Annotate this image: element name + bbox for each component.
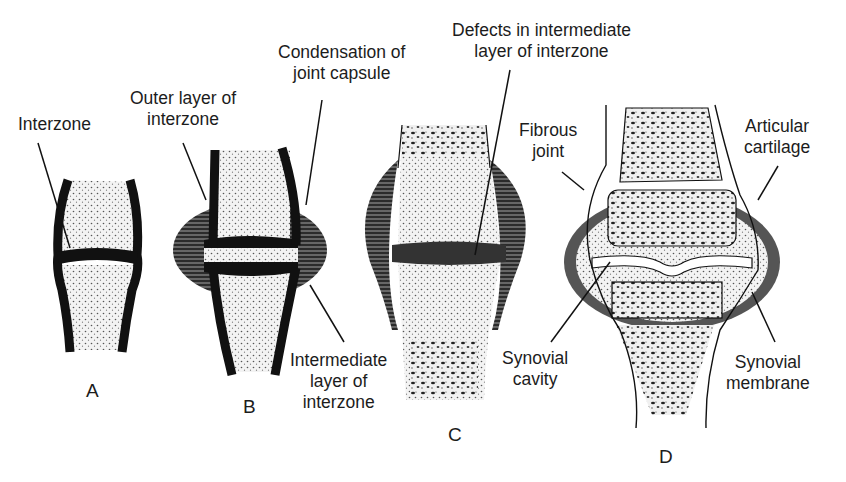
panel-label-a: A	[86, 380, 99, 402]
label-intermediate-layer: Intermediate layer of interzone	[290, 350, 387, 413]
panel-label-b: B	[243, 396, 256, 418]
label-outer-layer: Outer layer of interzone	[130, 88, 236, 130]
panel-label-d: D	[659, 446, 673, 468]
panel-label-c: C	[448, 424, 462, 446]
label-defects-intermediate-layer: Defects in intermediate layer of interzo…	[452, 20, 631, 62]
label-synovial-membrane: Synovial membrane	[726, 352, 810, 394]
panel-a-drawing	[38, 143, 138, 352]
label-articular-cartilage: Articular cartilage	[744, 116, 810, 158]
label-interzone: Interzone	[18, 114, 91, 135]
joint-development-diagram	[0, 0, 846, 482]
label-fibrous-joint: Fibrous joint	[519, 120, 577, 162]
label-synovial-cavity: Synovial cavity	[502, 348, 568, 390]
panel-b-drawing	[173, 100, 344, 375]
label-condensation-joint-capsule: Condensation of joint capsule	[278, 42, 405, 84]
